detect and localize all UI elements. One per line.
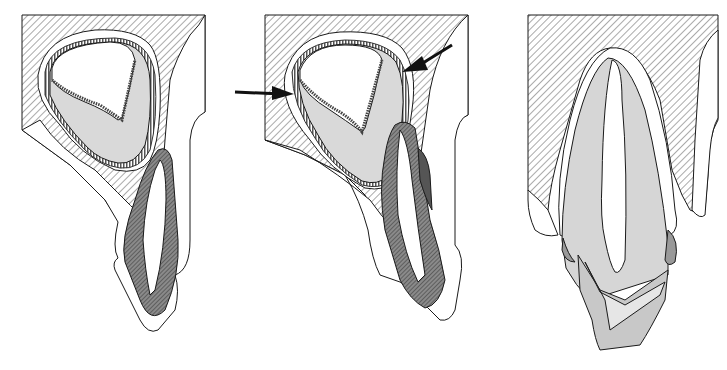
tooth-development-figure — [0, 0, 727, 370]
panel-3 — [528, 15, 718, 350]
panel-2 — [235, 15, 468, 320]
panel-1 — [22, 15, 205, 331]
